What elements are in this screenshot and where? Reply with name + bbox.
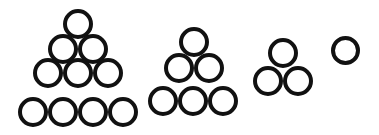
diagram-canvas <box>0 0 379 135</box>
circle-pyramid-1-1 <box>331 36 360 65</box>
circle-group-pyramid-1 <box>0 0 379 135</box>
